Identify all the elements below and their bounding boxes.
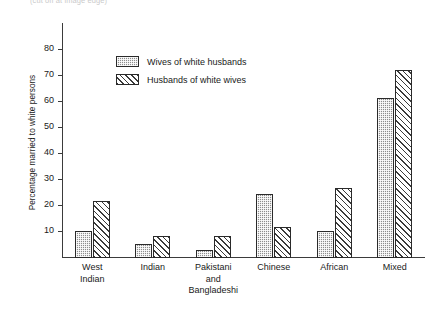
legend-label: Wives of white husbands (147, 57, 247, 67)
bar (153, 236, 170, 258)
bar (256, 194, 273, 258)
y-tick-label: 10 (44, 225, 54, 235)
bar-group (256, 23, 291, 258)
bar (214, 236, 231, 258)
category-label: West Indian (62, 262, 123, 285)
y-tick-label: 50 (44, 121, 54, 131)
bar-group (75, 23, 110, 258)
legend-swatch-diagonal-hatch-icon (116, 74, 139, 85)
bar (93, 201, 110, 258)
bar-chart: (cut off at image edge) Percentage marri… (0, 0, 431, 315)
y-tick-label: 30 (44, 173, 54, 183)
legend-label: Husbands of white wives (147, 75, 246, 85)
bar (335, 188, 352, 258)
bar (75, 231, 92, 258)
bar-group (377, 23, 412, 258)
bar (317, 231, 334, 258)
x-axis-category-labels: West IndianIndianPakistani and Banglades… (62, 262, 425, 314)
category-label: African (304, 262, 365, 274)
category-label: Mixed (365, 262, 426, 274)
legend-item: Husbands of white wives (116, 74, 247, 85)
bar (135, 244, 152, 258)
category-label: Indian (123, 262, 184, 274)
legend-swatch-stipple-icon (116, 56, 139, 67)
category-label: Pakistani and Bangladeshi (183, 262, 244, 297)
bar-group (317, 23, 352, 258)
top-caption: (cut off at image edge) (30, 0, 107, 5)
bar (196, 250, 213, 258)
y-tick-label: 80 (44, 43, 54, 53)
category-label: Chinese (244, 262, 305, 274)
bar (395, 70, 412, 259)
y-axis-label: Percentage married to white persons (28, 48, 37, 238)
y-tick-label: 60 (44, 95, 54, 105)
bar (377, 98, 394, 258)
y-tick-label: 40 (44, 147, 54, 157)
bar (274, 227, 291, 258)
chart-legend: Wives of white husbandsHusbands of white… (116, 56, 247, 92)
y-tick-label: 70 (44, 69, 54, 79)
y-tick-label: 20 (44, 199, 54, 209)
legend-item: Wives of white husbands (116, 56, 247, 67)
